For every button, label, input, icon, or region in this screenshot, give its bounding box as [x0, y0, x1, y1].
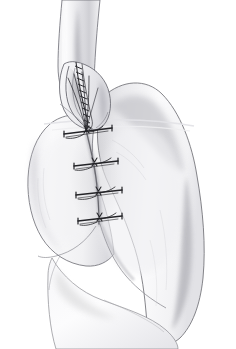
illustration-canvas — [0, 0, 236, 349]
suture-knot-generated — [64, 128, 112, 129]
surgical-illustration-figure: Pencil drawing of an organ joined to a s… — [0, 0, 236, 349]
